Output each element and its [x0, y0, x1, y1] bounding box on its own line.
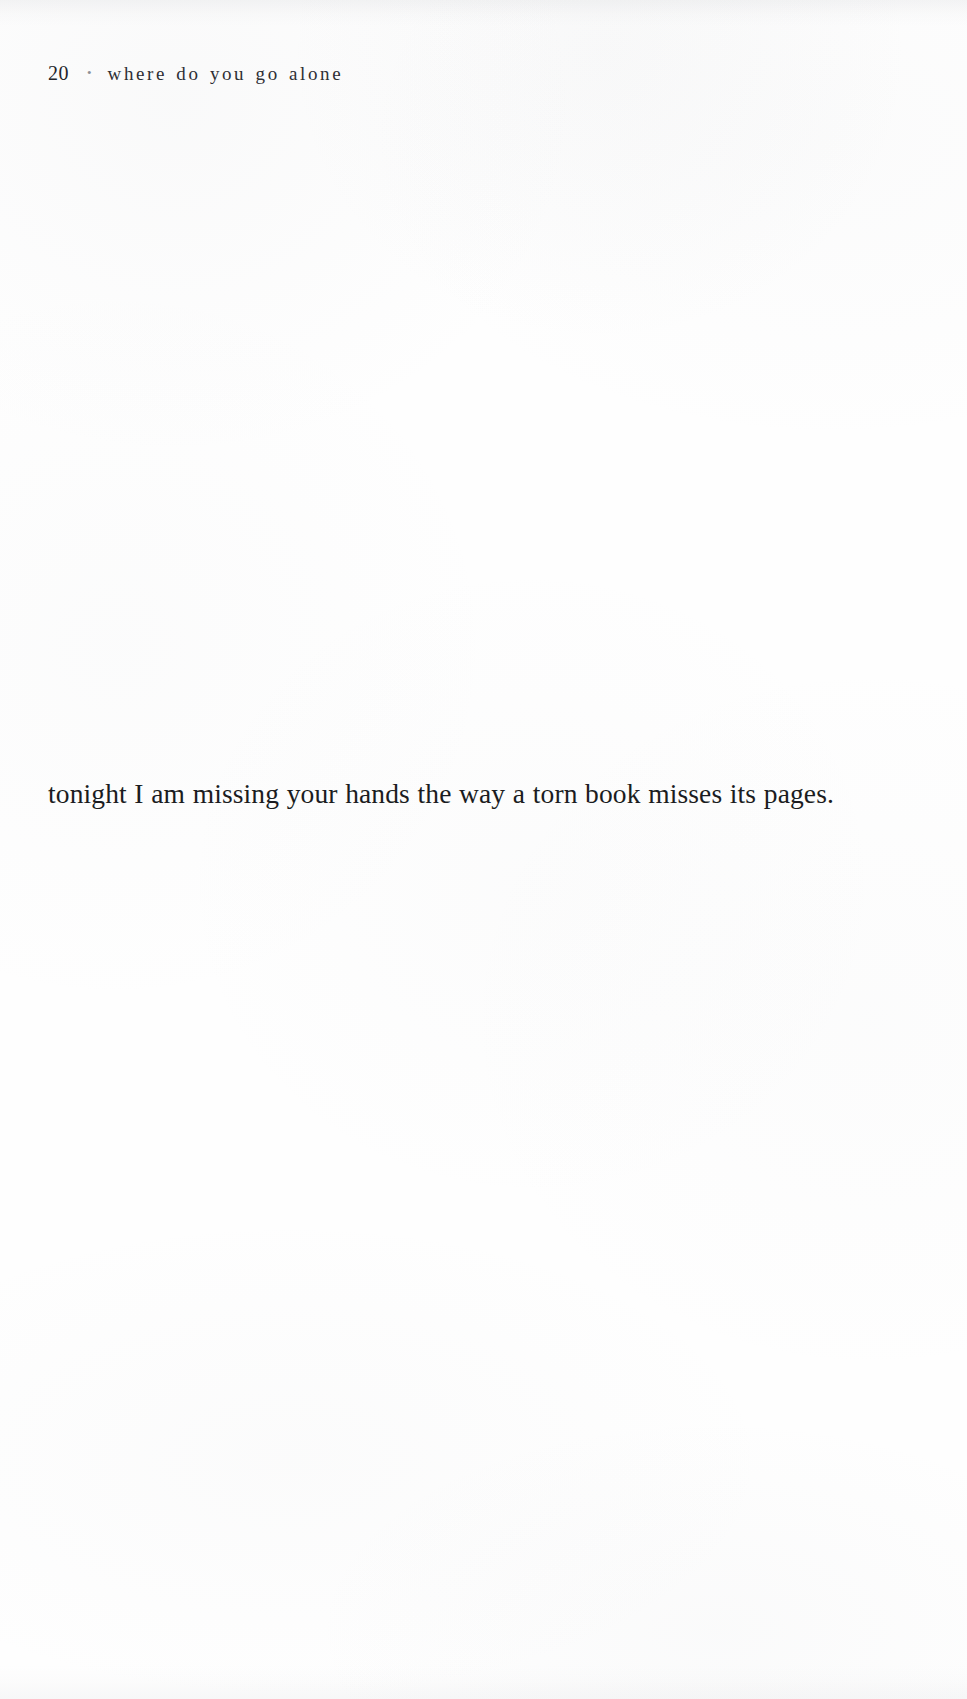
running-title: where do you go alone: [108, 63, 344, 85]
page-bottom-edge-shading: [0, 1665, 967, 1699]
bullet-separator-icon: •: [87, 65, 92, 81]
paper-texture: [0, 0, 967, 1699]
poem-body: tonight I am missing your hands the way …: [48, 776, 907, 813]
running-head: 20 • where do you go alone: [48, 62, 343, 85]
page-top-edge-shading: [0, 0, 967, 26]
poem-line: tonight I am missing your hands the way …: [48, 776, 907, 813]
page-number: 20: [48, 62, 69, 85]
book-page: 20 • where do you go alone tonight I am …: [0, 0, 967, 1699]
